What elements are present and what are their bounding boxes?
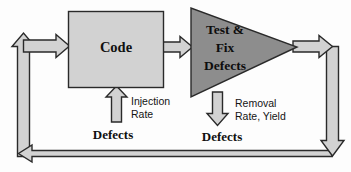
node-test-fix-defects[interactable]: Test & Fix Defects [191, 8, 297, 97]
injection-rate-label-line1: Injection [131, 95, 170, 107]
node-test-fix-label-line3: Defects [204, 58, 246, 73]
injection-rate-label-line2: Rate [131, 108, 153, 120]
diagram-canvas: Code Test & Fix Defects Injection Rate R… [0, 0, 351, 172]
defects-in-label: Defects [93, 127, 133, 142]
node-code-label: Code [100, 39, 133, 55]
defect-flow-diagram: Code Test & Fix Defects Injection Rate R… [0, 0, 351, 172]
arrow-left-bottom [19, 145, 333, 162]
defects-out-label: Defects [202, 129, 242, 144]
arrow-right-code-to-test [163, 37, 193, 58]
arrow-right-into-code [24, 35, 70, 58]
arrow-up-injection [106, 86, 127, 122]
removal-rate-label-line1: Removal [235, 97, 276, 109]
arrow-down-right-side [321, 47, 344, 157]
node-test-fix-label-line2: Fix [216, 40, 235, 55]
removal-rate-label-line2: Rate, Yield [235, 110, 286, 122]
arrow-down-removal [207, 92, 228, 126]
node-test-fix-label-line1: Test & [206, 22, 244, 37]
node-code[interactable]: Code [69, 12, 164, 88]
